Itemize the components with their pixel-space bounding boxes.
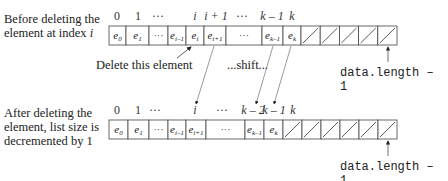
array-cell: ···	[206, 120, 245, 139]
array-cell: e0	[109, 26, 126, 45]
empty-cell	[320, 26, 339, 45]
empty-cell	[359, 120, 378, 139]
array-cell: ei–1	[168, 120, 186, 139]
empty-cell	[359, 26, 378, 45]
delete-arrow	[177, 47, 191, 58]
array-cell: ···	[226, 26, 262, 45]
empty-cell	[301, 26, 320, 45]
bottom-array: e0e1···ei–1ei+1···ek–1ek	[109, 120, 397, 139]
shift-arrow-i	[196, 46, 214, 104]
array-cell: ek–1	[262, 26, 283, 45]
top-array: e0e1···ei–1eiei+1···ek–1ek	[109, 26, 397, 45]
array-cell: ei	[186, 26, 204, 45]
array-cell: ···	[149, 120, 168, 139]
array-cell: e1	[126, 26, 149, 45]
empty-cell	[321, 120, 340, 139]
cell-ellipsis: ···	[154, 30, 164, 41]
cell-ellipsis: ···	[154, 124, 164, 135]
array-cell: e1	[128, 120, 149, 139]
shift-arrow-k-2	[256, 46, 273, 104]
cell-ellipsis: ···	[221, 124, 231, 135]
array-cell: ek	[264, 120, 283, 139]
empty-cell	[378, 26, 397, 45]
cell-ellipsis: ···	[239, 30, 249, 41]
array-cell: ei+1	[186, 120, 206, 139]
empty-cell	[340, 120, 359, 139]
array-cell: ei+1	[204, 26, 226, 45]
empty-cell	[339, 26, 358, 45]
empty-cell	[302, 120, 321, 139]
array-diagram: e0e1···ei–1eiei+1···ek–1ek e0e1···ei–1ei…	[0, 0, 448, 181]
array-cell: ei–1	[168, 26, 186, 45]
array-cell: ek	[283, 26, 301, 45]
array-cell: ek–1	[245, 120, 264, 139]
array-cell: ···	[149, 26, 168, 45]
empty-cell	[378, 120, 397, 139]
shift-arrow-k-1	[274, 46, 291, 104]
array-cell: e0	[109, 120, 128, 139]
empty-cell	[283, 120, 302, 139]
